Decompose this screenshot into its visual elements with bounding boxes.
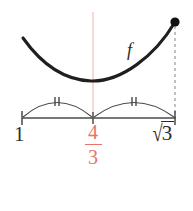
axis-label-right: √3 <box>150 122 174 145</box>
figure-canvas <box>0 0 193 211</box>
axis-label-left: 1 <box>14 124 25 145</box>
curve-label-f: f <box>127 40 132 61</box>
endpoint-dot <box>170 17 179 26</box>
math-figure: f 1 √3 4 3 <box>0 0 193 211</box>
sqrt-radicand: 3 <box>161 121 175 144</box>
sqrt-expression: √3 <box>150 122 174 145</box>
right-congruence-arc <box>94 103 174 118</box>
fraction-numerator: 4 <box>77 122 109 143</box>
fraction-denominator: 3 <box>77 147 109 168</box>
left-congruence-arc <box>23 103 92 118</box>
axis-label-midpoint: 4 3 <box>77 122 109 168</box>
fraction-bar <box>85 144 102 145</box>
function-curve <box>23 22 175 81</box>
